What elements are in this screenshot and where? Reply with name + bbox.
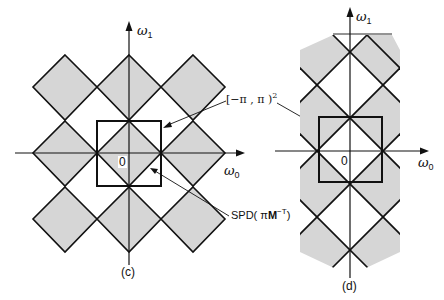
panel-d-caption: (d) bbox=[342, 280, 357, 292]
superscript: −T bbox=[277, 207, 287, 216]
panel-c-origin-label: 0 bbox=[118, 156, 127, 168]
subscript: 0 bbox=[235, 170, 240, 180]
panel-d-x-axis-label: ω0 bbox=[418, 156, 434, 172]
interval-text: [−π , π ) bbox=[226, 93, 272, 106]
omega-symbol: ω bbox=[137, 23, 148, 38]
panel-c-caption: (c) bbox=[121, 266, 135, 278]
omega-symbol: ω bbox=[224, 163, 235, 178]
panel-c-y-axis-label: ω1 bbox=[137, 24, 153, 40]
square-leader-arrow-icon bbox=[163, 122, 172, 129]
omega-symbol: ω bbox=[418, 155, 429, 170]
panel-d-y-arrow-icon bbox=[347, 7, 354, 17]
panel-d-x-arrow-icon bbox=[420, 148, 429, 155]
spd-label: SPD( πM−T) bbox=[231, 208, 290, 221]
subscript: 0 bbox=[429, 162, 434, 172]
figure-canvas bbox=[0, 0, 444, 300]
spd-prefix: SPD( π bbox=[231, 209, 268, 221]
panel-d-origin-label: 0 bbox=[340, 155, 349, 167]
subscript: 1 bbox=[148, 30, 153, 40]
subscript: 1 bbox=[367, 16, 372, 26]
panel-d-y-axis-label: ω1 bbox=[356, 10, 372, 26]
panel-c-x-arrow-icon bbox=[236, 150, 245, 157]
panel-c-x-axis-label: ω0 bbox=[224, 164, 240, 180]
square-region-label: [−π , π )2 bbox=[226, 92, 277, 105]
spd-leader-arrow-icon bbox=[150, 168, 158, 174]
spd-suffix: ) bbox=[287, 209, 291, 221]
superscript: 2 bbox=[272, 91, 277, 100]
panel-c-y-arrow-icon bbox=[126, 21, 133, 31]
omega-symbol: ω bbox=[356, 9, 367, 24]
matrix-symbol: M bbox=[268, 209, 277, 221]
